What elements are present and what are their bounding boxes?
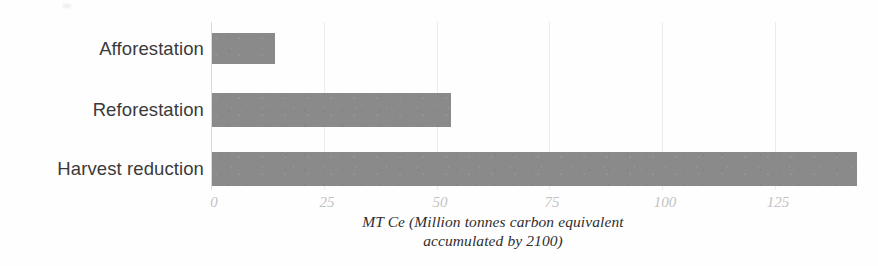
xtick-label-125: 125 (767, 194, 790, 211)
xtick-label-0: 0 (210, 194, 218, 211)
x-axis-label-line2: accumulated by 2100) (211, 231, 775, 250)
xtick-label-50: 50 (433, 194, 448, 211)
category-label-afforestation: Afforestation (0, 38, 204, 60)
x-axis-label: MT Ce (Million tonnes carbon equivalent … (211, 212, 775, 250)
category-label-reforestation: Reforestation (0, 99, 204, 121)
xtick-label-25: 25 (320, 194, 335, 211)
bar-harvest-reduction (212, 152, 857, 186)
bar-afforestation (212, 33, 275, 64)
bar-reforestation (212, 93, 451, 127)
plot-area: Afforestation Reforestation Harvest redu… (0, 0, 878, 266)
category-label-harvest-reduction: Harvest reduction (0, 158, 204, 180)
bar-chart: Afforestation Reforestation Harvest redu… (0, 0, 878, 266)
xtick-label-75: 75 (545, 194, 560, 211)
x-axis-label-line1: MT Ce (Million tonnes carbon equivalent (362, 213, 623, 230)
xtick-label-100: 100 (654, 194, 677, 211)
